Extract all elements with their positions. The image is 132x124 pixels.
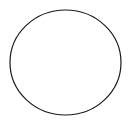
background-rect xyxy=(0,0,132,124)
figure-canvas xyxy=(0,0,132,124)
canvas-root xyxy=(0,0,132,124)
